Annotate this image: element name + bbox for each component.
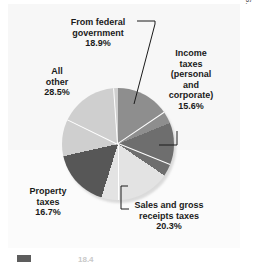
legend-strip-background [0, 252, 255, 264]
slice-label-sales-and-gross-receipts-taxes: Sales and gross receipts taxes 20.3% [124, 200, 214, 232]
pie-chart-figure: From federal government 18.9% Income tax… [0, 0, 255, 264]
slice-label-property-taxes: Property taxes 16.7% [14, 186, 82, 218]
source-note-suffix: (Washington, D.C.: U.S. Government Print… [235, 0, 252, 4]
pie-chart[interactable] [62, 88, 174, 200]
legend-value-label: 18.4 [78, 255, 94, 264]
slice-label-all-other: All other 28.5% [26, 66, 88, 98]
slice-label-income-taxes: Income taxes (personal and corporate) 15… [160, 48, 222, 112]
slice-label-from-federal-government: From federal government 18.9% [58, 17, 138, 49]
legend-color-swatch [17, 255, 31, 262]
source-note: SOURCE: Economic Report of the President… [231, 0, 253, 6]
slice-divider [118, 144, 119, 200]
